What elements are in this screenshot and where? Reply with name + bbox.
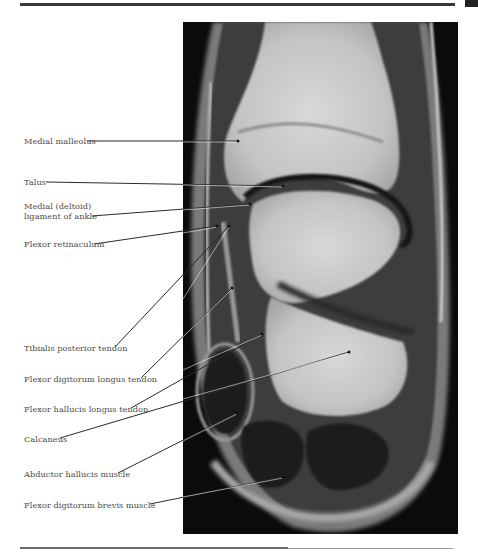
label-medial-deltoid-ligament-line1: Medial (deltoid) bbox=[24, 201, 91, 211]
bottom-rule bbox=[20, 547, 288, 549]
label-talus: Talus bbox=[24, 177, 46, 187]
label-medial-malleolus: Medial malleolus bbox=[24, 136, 96, 146]
page-corner-tab bbox=[465, 0, 478, 7]
label-abductor-hallucis-muscle: Abductor hallucis muscle bbox=[24, 469, 130, 479]
label-flexor-digitorum-brevis-muscle: Flexor digitorum brevis muscle bbox=[24, 500, 156, 510]
label-medial-deltoid-ligament-line2: ligament of ankle bbox=[24, 211, 97, 221]
label-flexor-hallucis-longus-tendon: Flexor hallucis longus tendon bbox=[24, 404, 148, 414]
label-tibialis-posterior-tendon: Tibialis posterior tendon bbox=[24, 343, 127, 353]
label-flexor-digitorum-longus-tendon: Flexor digitorum longus tendon bbox=[24, 374, 157, 384]
mri-illustration bbox=[183, 22, 458, 534]
label-calcaneus: Calcaneus bbox=[24, 434, 67, 444]
top-rule bbox=[20, 3, 455, 6]
mri-image bbox=[183, 22, 458, 534]
bottom-rule-extension bbox=[288, 548, 453, 549]
label-flexor-retinaculum: Flexor retinaculum bbox=[24, 239, 104, 249]
